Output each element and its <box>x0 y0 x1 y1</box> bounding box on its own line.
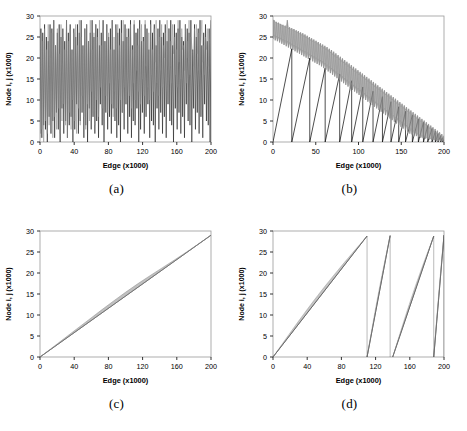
x-tick-label: 120 <box>137 362 149 371</box>
plot-area-c: 04080120160200051015202530Edge (x1000)No… <box>0 215 233 395</box>
x-tick-label: 0 <box>271 362 275 371</box>
chart-c: 04080120160200051015202530Edge (x1000)No… <box>0 215 233 395</box>
y-tick-label: 15 <box>259 75 267 84</box>
svg-text:Node i, j (x1000): Node i, j (x1000) <box>5 267 13 320</box>
y-axis-title: Node i, j (x1000) <box>5 52 13 105</box>
svg-text:Node i, j (x1000): Node i, j (x1000) <box>238 267 246 320</box>
y-tick-label: 30 <box>26 227 34 236</box>
chart-a: 04080120160200051015202530Edge (x1000)No… <box>0 0 233 180</box>
x-tick-label: 50 <box>312 147 320 156</box>
x-axis-title: Edge (x1000) <box>336 161 382 170</box>
y-tick-label: 30 <box>259 227 267 236</box>
panel-caption-a: (a) <box>0 181 233 197</box>
y-tick-label: 0 <box>30 353 34 362</box>
x-tick-label: 40 <box>70 362 78 371</box>
y-tick-label: 30 <box>259 12 267 21</box>
y-tick-label: 15 <box>26 75 34 84</box>
plot-area-a: 04080120160200051015202530Edge (x1000)No… <box>0 0 233 180</box>
y-tick-label: 10 <box>26 96 34 105</box>
x-tick-label: 80 <box>104 147 112 156</box>
x-tick-label: 80 <box>104 362 112 371</box>
plot-area-d: 04080120160200051015202530Edge (x1000)No… <box>233 215 466 395</box>
y-axis-title: Node i, j (x1000) <box>238 267 246 320</box>
y-tick-label: 5 <box>263 117 267 126</box>
y-tick-label: 5 <box>263 332 267 341</box>
figure-four-panel: 04080120160200051015202530Edge (x1000)No… <box>0 0 467 431</box>
plot-area-b: 050100150200051015202530Edge (x1000)Node… <box>233 0 466 180</box>
x-tick-label: 120 <box>137 147 149 156</box>
panel-caption-d: (d) <box>233 396 466 412</box>
y-tick-label: 0 <box>263 353 267 362</box>
y-tick-label: 25 <box>26 33 34 42</box>
x-tick-label: 200 <box>205 147 217 156</box>
panel-a: 04080120160200051015202530Edge (x1000)No… <box>0 0 233 215</box>
panel-b: 050100150200051015202530Edge (x1000)Node… <box>233 0 466 215</box>
y-axis-title: Node i, j (x1000) <box>238 52 246 105</box>
x-axis-title: Edge (x1000) <box>103 161 149 170</box>
x-tick-label: 200 <box>205 362 217 371</box>
x-tick-label: 40 <box>70 147 78 156</box>
chart-b: 050100150200051015202530Edge (x1000)Node… <box>233 0 466 180</box>
y-tick-label: 5 <box>30 332 34 341</box>
panel-caption-c: (c) <box>0 396 233 412</box>
y-tick-label: 15 <box>26 290 34 299</box>
y-tick-label: 20 <box>26 269 34 278</box>
y-tick-label: 10 <box>259 96 267 105</box>
y-tick-label: 0 <box>30 138 34 147</box>
x-tick-label: 160 <box>404 362 416 371</box>
x-tick-label: 0 <box>38 362 42 371</box>
x-tick-label: 160 <box>171 147 183 156</box>
x-tick-label: 200 <box>438 147 450 156</box>
x-tick-label: 160 <box>171 362 183 371</box>
y-tick-label: 15 <box>259 290 267 299</box>
y-tick-label: 25 <box>26 248 34 257</box>
panel-caption-b: (b) <box>233 181 466 197</box>
x-tick-label: 0 <box>271 147 275 156</box>
svg-text:Node i, j (x1000): Node i, j (x1000) <box>238 52 246 105</box>
panel-d: 04080120160200051015202530Edge (x1000)No… <box>233 215 466 430</box>
y-tick-label: 5 <box>30 117 34 126</box>
panel-c: 04080120160200051015202530Edge (x1000)No… <box>0 215 233 430</box>
x-tick-label: 150 <box>395 147 407 156</box>
y-tick-label: 0 <box>263 138 267 147</box>
x-tick-label: 120 <box>370 362 382 371</box>
x-tick-label: 40 <box>303 362 311 371</box>
x-tick-label: 100 <box>353 147 365 156</box>
chart-d: 04080120160200051015202530Edge (x1000)No… <box>233 215 466 395</box>
y-tick-label: 25 <box>259 248 267 257</box>
y-tick-label: 10 <box>26 311 34 320</box>
svg-text:Node i, j (x1000): Node i, j (x1000) <box>5 52 13 105</box>
x-axis-title: Edge (x1000) <box>336 376 382 385</box>
y-axis-title: Node i, j (x1000) <box>5 267 13 320</box>
x-tick-label: 200 <box>438 362 450 371</box>
x-axis-title: Edge (x1000) <box>103 376 149 385</box>
y-tick-label: 20 <box>259 269 267 278</box>
x-tick-label: 80 <box>337 362 345 371</box>
plot-frame <box>273 231 444 357</box>
x-tick-label: 0 <box>38 147 42 156</box>
y-tick-label: 20 <box>26 54 34 63</box>
y-tick-label: 20 <box>259 54 267 63</box>
y-tick-label: 30 <box>26 12 34 21</box>
y-tick-label: 10 <box>259 311 267 320</box>
y-tick-label: 25 <box>259 33 267 42</box>
